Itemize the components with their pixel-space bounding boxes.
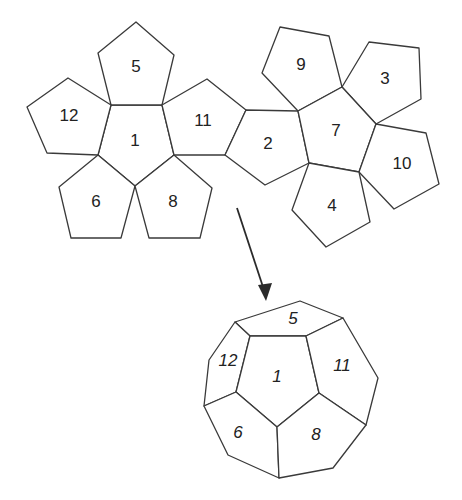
net-face-label: 5 [131,57,140,76]
net-face-label: 6 [91,192,100,211]
net-face-label: 7 [331,121,340,140]
dodecahedron-net: 151268112937104 [27,22,439,247]
net-face-label: 4 [327,196,336,215]
arrow-shaft [237,208,264,290]
net-face-label: 11 [194,111,212,130]
solid-face-label: 12 [219,351,238,370]
dodecahedron-solid: 51211168 [204,301,378,478]
fold-arrow [237,208,272,301]
net-face-label: 1 [130,131,139,150]
arrowhead-icon [258,283,272,301]
solid-face-label: 5 [288,309,298,328]
solid-face-label: 6 [233,423,243,442]
solid-face-label: 8 [311,425,321,444]
dodecahedron-diagram: 151268112937104 51211168 [0,0,462,500]
net-face-label: 9 [296,55,305,74]
solid-face-label: 11 [333,356,351,375]
net-face-label: 3 [380,69,389,88]
net-face-label: 8 [168,192,177,211]
solid-face-label: 1 [272,367,281,386]
diagram-canvas: 151268112937104 51211168 [0,0,462,500]
net-face-label: 2 [263,134,272,153]
net-face-label: 12 [60,106,79,125]
net-face-label: 10 [393,154,412,173]
